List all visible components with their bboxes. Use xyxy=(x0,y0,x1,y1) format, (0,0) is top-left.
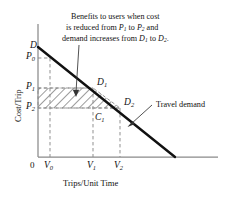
benefit-annotation-line-3: demand increases from D1 to D2. xyxy=(62,34,169,44)
origin-label: 0 xyxy=(30,161,35,170)
benefit-annotation-line-2: is reduced from P1 to P2 and xyxy=(66,23,158,33)
y-tick-sub-P1: 1 xyxy=(32,85,35,92)
y-tick-label-P2: P2 xyxy=(26,102,35,112)
x-tick-label-V0: V0 xyxy=(44,161,53,171)
x-axis-title: Trips/Unit Time xyxy=(63,178,118,188)
benefit-annotation-line-1: Benefits to users when cost xyxy=(71,12,160,22)
x-tick-sub-V0: 0 xyxy=(50,164,53,171)
y-tick-label-D: D xyxy=(30,41,37,51)
y-tick-sub-P2: 2 xyxy=(32,105,35,112)
y-tick-sub-P0: 0 xyxy=(32,55,35,62)
point-sub-D1: 1 xyxy=(104,81,107,88)
x-tick-label-V1: V1 xyxy=(87,161,96,171)
point-sub-D2: 2 xyxy=(131,101,134,108)
y-tick-label-P0: P0 xyxy=(26,52,35,62)
point-label-D1: D1 xyxy=(97,78,107,88)
travel-demand-benefit-diagram: Benefits to users when cost is reduced f… xyxy=(0,0,225,202)
x-tick-label-V2: V2 xyxy=(114,161,123,171)
point-label-C1: C1 xyxy=(95,113,105,123)
series-label-leader-arrow xyxy=(128,105,153,127)
point-label-D2: D2 xyxy=(124,98,134,108)
point-sub-C1: 1 xyxy=(101,116,104,123)
x-tick-sub-V2: 2 xyxy=(120,164,123,171)
y-axis-title: Cost/Trip xyxy=(13,89,23,122)
x-tick-sub-V1: 1 xyxy=(93,164,96,171)
benefit-shaded-region xyxy=(30,80,130,120)
y-tick-label-P1: P1 xyxy=(26,82,35,92)
travel-demand-label: Travel demand xyxy=(156,100,205,109)
